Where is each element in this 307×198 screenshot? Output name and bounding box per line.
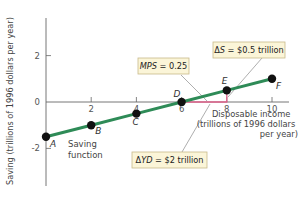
- y-axis-label: Saving (trillions of 1996 dollars per ye…: [5, 17, 15, 185]
- point-d: [177, 98, 185, 106]
- point-f: [268, 75, 276, 83]
- x-tick-label: 2: [88, 104, 93, 114]
- delta-s-leader-line: [228, 58, 262, 97]
- point-label: E: [222, 76, 228, 86]
- saving-function-label: Saving function: [68, 139, 103, 160]
- svg-text:ΔYD = $2 trillion: ΔYD = $2 trillion: [136, 155, 204, 165]
- mps-annotation: MPS = 0.25: [138, 58, 189, 74]
- point-b: [87, 121, 95, 129]
- point-label: C: [132, 117, 139, 127]
- point-label: A: [49, 139, 56, 149]
- point-a: [42, 133, 50, 141]
- point-label: D: [174, 89, 181, 99]
- y-tick-label: 0: [35, 97, 40, 107]
- y-tick-label: -2: [32, 143, 40, 153]
- x-axis-label: Disposable income (trillions of 1996 dol…: [197, 109, 298, 139]
- svg-text:ΔS = $0.5 trillion: ΔS = $0.5 trillion: [214, 45, 284, 55]
- delta-s-annotation: ΔS = $0.5 trillion: [213, 42, 285, 58]
- saving-function-chart: Saving (trillions of 1996 dollars per ye…: [0, 0, 307, 198]
- y-tick-label: 2: [35, 51, 40, 61]
- svg-text:MPS = 0.25: MPS = 0.25: [140, 61, 188, 71]
- point-e: [223, 86, 231, 94]
- point-label: F: [276, 81, 282, 91]
- delta-yd-annotation: ΔYD = $2 trillion: [132, 152, 207, 168]
- point-label: B: [95, 126, 101, 136]
